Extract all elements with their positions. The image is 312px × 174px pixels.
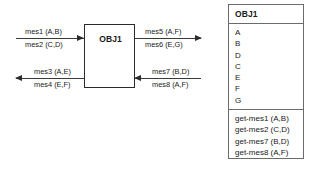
class-panel-operation-list: get-mes1 (A,B) get-mes2 (C,D) get-mes7 (… bbox=[229, 110, 303, 160]
object-box-title: OBJ1 bbox=[85, 34, 136, 44]
message-label-mes6: mes6 (E,G) bbox=[145, 40, 183, 49]
message-label-mes7: mes7 (B,D) bbox=[152, 67, 189, 76]
list-item: D bbox=[235, 50, 303, 61]
message-label-mes4: mes4 (E,F) bbox=[34, 80, 71, 89]
list-item: E bbox=[235, 72, 303, 83]
list-item: C bbox=[235, 61, 303, 72]
message-label-mes3: mes3 (A,E) bbox=[34, 67, 71, 76]
message-label-mes5: mes5 (A,F) bbox=[145, 27, 182, 36]
message-line-in-top bbox=[16, 38, 84, 39]
diagram-canvas: mes1 (A,B) mes2 (C,D) mes3 (A,E) mes4 (E… bbox=[0, 0, 312, 174]
object-box-obj1[interactable]: OBJ1 bbox=[84, 24, 135, 88]
message-label-mes2: mes2 (C,D) bbox=[25, 40, 63, 49]
arrowhead-left-icon bbox=[15, 75, 22, 81]
class-panel-header-label: OBJ1 bbox=[235, 9, 258, 19]
class-panel-obj1[interactable]: OBJ1 A B D C E F G get-mes1 (A,B) get-me… bbox=[228, 4, 304, 159]
list-item: get-mes2 (C,D) bbox=[235, 124, 303, 135]
list-item: A bbox=[235, 27, 303, 38]
list-item: get-mes7 (B,D) bbox=[235, 136, 303, 147]
message-label-mes8: mes8 (A,F) bbox=[152, 80, 189, 89]
list-item: get-mes8 (A,F) bbox=[235, 147, 303, 158]
list-item: F bbox=[235, 83, 303, 94]
class-panel-header: OBJ1 bbox=[229, 5, 303, 24]
message-line-in-bottom bbox=[135, 78, 201, 79]
message-label-mes1: mes1 (A,B) bbox=[25, 27, 62, 36]
list-item: G bbox=[235, 95, 303, 106]
class-panel-attribute-list: A B D C E F G bbox=[229, 24, 303, 110]
arrowhead-right-icon bbox=[77, 35, 84, 41]
list-item: B bbox=[235, 38, 303, 49]
message-line-out-bottom bbox=[16, 78, 84, 79]
message-line-out-top bbox=[135, 38, 201, 39]
arrowhead-left-icon bbox=[134, 75, 141, 81]
list-item: get-mes1 (A,B) bbox=[235, 113, 303, 124]
arrowhead-right-icon bbox=[195, 35, 202, 41]
